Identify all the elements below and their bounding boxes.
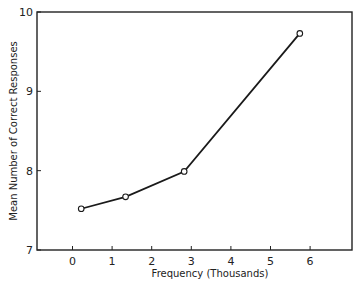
plot-border [37, 12, 352, 250]
data-point-marker [181, 169, 187, 175]
x-tick-label: 0 [69, 255, 76, 268]
x-tick-label: 4 [227, 255, 234, 268]
x-tick-label: 1 [109, 255, 116, 268]
y-axis-label: Mean Number of Correct Responses [8, 41, 19, 221]
line-chart: 0123456 78910 Frequency (Thousands) Mean… [0, 0, 362, 287]
y-tick-label: 10 [19, 6, 33, 19]
y-tick-label: 9 [26, 85, 33, 98]
x-tick-label: 6 [307, 255, 314, 268]
data-series [78, 31, 302, 212]
x-tick-label: 2 [148, 255, 155, 268]
x-axis-label: Frequency (Thousands) [152, 268, 269, 279]
plot-frame [37, 12, 352, 250]
y-tick-label: 8 [26, 165, 33, 178]
x-tick-label: 3 [188, 255, 195, 268]
series-line [81, 33, 300, 208]
data-point-marker [78, 206, 84, 212]
data-point-marker [123, 194, 129, 200]
x-tick-label: 5 [267, 255, 274, 268]
y-tick-label: 7 [26, 244, 33, 257]
data-point-marker [297, 31, 303, 37]
